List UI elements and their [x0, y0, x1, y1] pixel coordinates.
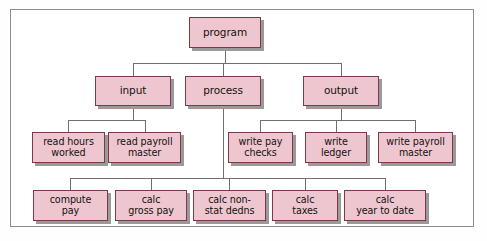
diagram-canvas: program input process output read hours …	[0, 0, 487, 241]
node-input[interactable]: input	[95, 76, 171, 106]
node-calc-taxes[interactable]: calc taxes	[272, 190, 338, 221]
node-compute-pay[interactable]: compute pay	[33, 190, 108, 221]
node-write-payroll-master[interactable]: write payroll master	[378, 132, 453, 163]
node-process[interactable]: process	[185, 76, 261, 106]
node-calc-year-to-date[interactable]: calc year to date	[344, 190, 426, 221]
node-output[interactable]: output	[303, 76, 379, 106]
node-program[interactable]: program	[189, 17, 261, 48]
node-read-hours-worked[interactable]: read hours worked	[32, 132, 105, 163]
node-write-pay-checks[interactable]: write pay checks	[228, 132, 293, 163]
node-write-ledger[interactable]: write ledger	[305, 132, 367, 163]
node-calc-non-stat-dedns[interactable]: calc non- stat dedns	[193, 190, 266, 221]
node-read-payroll-master[interactable]: read payroll master	[108, 132, 181, 163]
node-calc-gross-pay[interactable]: calc gross pay	[115, 190, 187, 221]
